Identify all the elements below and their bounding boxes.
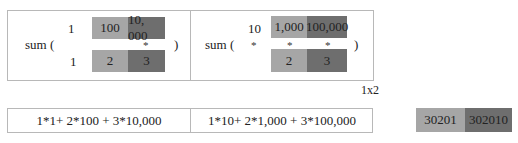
left-row2-cell-2: 3 — [128, 50, 165, 72]
left-row2-cell-1: 2 — [92, 50, 128, 72]
right-row2-cell-1: 2 — [271, 49, 307, 72]
formula-left: 1*1+ 2*100 + 3*10,000 — [8, 108, 190, 133]
right-row2-cell-2: 3 — [307, 49, 347, 72]
right-row1-cell-2: 100,000 — [307, 16, 347, 38]
left-row1-cell-2: 10, 000 — [128, 17, 165, 39]
result-cell-1: 30201 — [416, 108, 465, 132]
right-close-paren: ) — [354, 38, 358, 52]
left-close-paren: ) — [174, 38, 178, 52]
right-row1-cell-1: 1,000 — [271, 16, 307, 38]
left-sum-label: sum ( — [25, 38, 54, 52]
left-row2-scalar: 1 — [70, 55, 77, 69]
right-row1-scalar: 10 — [248, 22, 261, 36]
result-cell-2: 302010 — [465, 108, 512, 132]
formula-right: 1*10+ 2*1,000 + 3*100,000 — [191, 108, 373, 133]
right-sum-label: sum ( — [205, 38, 234, 52]
left-row1-cell-1: 100 — [92, 17, 128, 39]
left-row1-scalar: 1 — [68, 22, 75, 36]
right-star-1: * — [251, 40, 257, 51]
shape-label: 1x2 — [361, 83, 379, 97]
panel-divider — [190, 10, 191, 81]
